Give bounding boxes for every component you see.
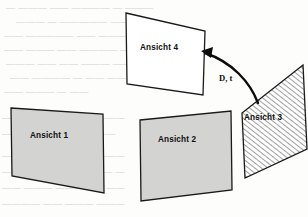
ghost-line: ——— —— —— ——— ——— [5,58,142,68]
ghost-line: — ——— —— ———— — ——— [5,2,154,12]
shape-ansicht-2[interactable]: Ansicht 2 [140,111,232,201]
ansicht-4-polygon [126,13,205,95]
ghost-line: ———— —— ——— ——— [1,198,126,208]
ansicht-3-label: Ansicht 3 [244,113,282,122]
ansicht-1-polygon [11,108,104,193]
figure-canvas: — ——— —— ———— — ——— ——— — ————— ——— —— —… [0,0,308,217]
transformation-arrow[interactable]: D, t [201,47,258,103]
ghost-line: —— ——— — —— [3,86,89,96]
ghost-line: —— ——— —— ———— —— [3,44,140,54]
shape-ansicht-4[interactable]: Ansicht 4 [126,13,205,95]
diagram-svg: — ——— —— ———— — ——— ——— — ————— ——— —— —… [0,0,308,217]
shape-ansicht-3[interactable]: Ansicht 3 [242,65,307,178]
shape-ansicht-1[interactable]: Ansicht 1 [11,108,104,193]
arrow-label: D, t [219,73,233,83]
ansicht-1-label: Ansicht 1 [30,131,68,140]
ghost-line: —— ————— —— ———— [3,30,137,40]
ghost-line: —— ———— — —— —— — [9,72,139,82]
ghost-line: ——— — ————— ——— [15,16,140,26]
ansicht-4-label: Ansicht 4 [140,43,178,52]
ansicht-2-polygon [140,111,232,201]
ansicht-2-label: Ansicht 2 [158,135,196,144]
